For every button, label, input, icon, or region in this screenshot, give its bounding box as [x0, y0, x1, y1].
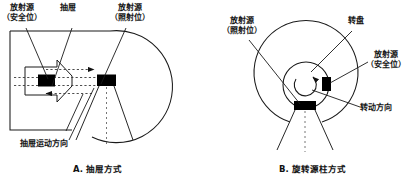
panel-a-room-circle: [40, 31, 172, 143]
panel-a-label-source-safe-line2: （安全位）: [2, 13, 42, 23]
figure-canvas: 放射源 （安全位） 抽屉 放射源 （照射位） 抽屉运动方向 放射源 （照射位） …: [0, 0, 410, 180]
panel-b-label-rotation-direction: 转动方向: [360, 103, 392, 113]
panel-a-label-drawer-text: 抽屉: [60, 3, 76, 12]
panel-a-label-drawer-motion: 抽屉运动方向: [20, 139, 68, 149]
panel-a-beam-edge-right: [114, 86, 133, 140]
panel-b-label-source-safe: 放射源 （安全位）: [366, 50, 406, 69]
panel-b-label-source-irradiate-line2: （照射位）: [222, 26, 262, 36]
panel-b-label-turntable: 转盘: [348, 16, 364, 26]
panel-b-beam-edge-right: [315, 110, 333, 150]
panel-a-source-irradiate-block: [97, 75, 116, 87]
panel-a-label-source-irradiate: 放射源 （照射位）: [110, 3, 150, 22]
panel-b-leader-source-irradiate: [249, 40, 300, 104]
panel-b-rotation-arrow: [294, 77, 316, 96]
panel-a-label-source-safe-line1: 放射源: [10, 3, 34, 12]
panel-a-leader-motion-1: [69, 88, 94, 140]
panel-b-beam-edge-left: [277, 110, 295, 150]
panel-a-label-source-irradiate-line2: （照射位）: [110, 13, 150, 23]
panel-b-label-turntable-text: 转盘: [348, 16, 364, 25]
figure-svg: [0, 0, 410, 180]
panel-a-caption: A. 抽屉方式: [73, 162, 122, 174]
panel-a-drawing: [10, 28, 172, 147]
panel-b-label-source-safe-line2: （安全位）: [366, 60, 406, 70]
panel-b-drawing: [249, 21, 368, 152]
panel-b-label-source-safe-line1: 放射源: [374, 50, 398, 59]
panel-a-label-drawer: 抽屉: [60, 3, 76, 13]
panel-b-caption: B. 旋转源柱方式: [279, 162, 346, 174]
panel-a-leader-motion-2: [66, 94, 83, 131]
panel-b-source-irradiate-block: [294, 101, 316, 110]
panel-b-label-source-irradiate-line1: 放射源: [230, 16, 254, 25]
panel-a-beam-edge-left: [76, 86, 99, 140]
panel-a-leader-source-safe: [26, 28, 48, 79]
panel-b-source-safe-block: [322, 77, 331, 91]
panel-b-leader-turntable: [311, 31, 352, 72]
panel-b-label-rotation-direction-text: 转动方向: [360, 103, 392, 112]
panel-a-label-drawer-motion-text: 抽屉运动方向: [20, 139, 68, 148]
panel-a-label-source-safe: 放射源 （安全位）: [2, 3, 42, 22]
panel-b-label-source-irradiate: 放射源 （照射位）: [222, 16, 262, 35]
panel-b-leader-source-safe: [330, 62, 368, 83]
panel-a-label-source-irradiate-line1: 放射源: [118, 3, 142, 12]
